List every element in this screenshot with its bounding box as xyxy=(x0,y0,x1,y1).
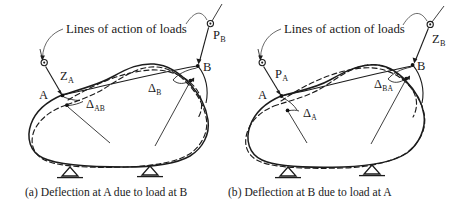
panel-b-label-delta-a: ΔA xyxy=(303,106,317,122)
panel-b-line-of-action-right xyxy=(432,6,444,22)
panel-b-delta-a-tick-2 xyxy=(289,110,299,111)
panel-a-force-arrowhead-right xyxy=(196,59,201,65)
panel-b-leader-left xyxy=(261,29,282,58)
panel-b-label-point-b: B xyxy=(417,59,425,73)
panel-b-annotation-header: Lines of action of loads xyxy=(284,22,405,36)
panel-a-chord-line xyxy=(62,66,197,95)
panel-a-label-delta-ab: ΔAB xyxy=(86,97,105,113)
panel-b-support-left xyxy=(275,167,301,178)
panel-a-label-point-b: B xyxy=(203,60,211,74)
panel-a-force-arrow-right xyxy=(200,27,209,61)
panel-a-line-of-action-right xyxy=(212,4,222,21)
panel-a-point-a-deflected-dot xyxy=(65,103,69,107)
panel-b-load-left xyxy=(258,29,281,96)
diagram-svg: Lines of action of loads A B ZA PB ΔAB Δ… xyxy=(0,0,463,207)
panel-b-point-a-deflected-dot xyxy=(286,109,290,113)
panel-a-support-left xyxy=(57,167,83,178)
panel-a-label-force-left: ZA xyxy=(60,69,74,85)
panel-a-load-ring-right-center xyxy=(209,23,211,25)
panel-a-leader-left xyxy=(43,29,64,58)
panel-b-deformation-ridge xyxy=(281,68,417,117)
panel-a-label-force-right: PB xyxy=(213,28,226,44)
panel-a-label-point-a: A xyxy=(39,88,48,102)
panel-b-leader-right xyxy=(403,13,427,25)
panel-a-label-delta-b: ΔB xyxy=(148,81,161,97)
panel-b-label-point-a: A xyxy=(258,88,267,102)
panel-b-force-arrow-right xyxy=(416,28,429,60)
panel-a-leader-right xyxy=(186,13,207,24)
panel-a-annotation-header: Lines of action of loads xyxy=(66,22,187,36)
panel-a-caption: (a) Deflection at A due to load at B xyxy=(25,186,188,199)
panel-a-load-left xyxy=(40,29,63,96)
panel-a-support-right xyxy=(137,166,163,177)
panel-b-label-force-left: PA xyxy=(275,67,288,83)
panel-b-load-ring-left-center xyxy=(261,62,263,64)
panel-b-body-deformed xyxy=(246,65,425,169)
panel-b-label-delta-ba: ΔBA xyxy=(374,77,393,93)
panel-b: Lines of action of loads A B PA ZB ΔA ΔB… xyxy=(228,6,446,199)
panel-b-delta-a-tick xyxy=(283,98,297,110)
panel-b-label-force-right: ZB xyxy=(432,32,446,48)
panel-b-caption: (b) Deflection at B due to load at A xyxy=(228,186,392,199)
figure-root: Lines of action of loads A B ZA PB ΔAB Δ… xyxy=(0,0,463,207)
panel-b-load-ring-right-center xyxy=(429,23,431,25)
panel-a: Lines of action of loads A B ZA PB ΔAB Δ… xyxy=(25,4,226,199)
panel-a-load-ring-left-center xyxy=(43,62,45,64)
